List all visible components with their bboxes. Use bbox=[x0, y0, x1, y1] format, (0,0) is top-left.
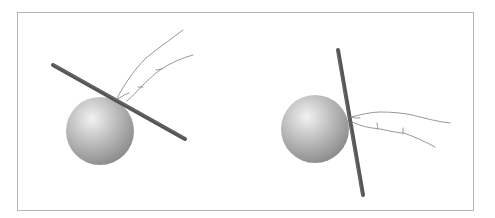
diagram-canvas bbox=[0, 0, 495, 218]
right-ball bbox=[281, 95, 349, 163]
left-ball bbox=[66, 97, 134, 165]
